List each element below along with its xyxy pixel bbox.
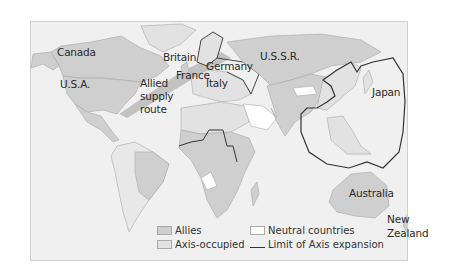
greenland-shape [141,24,196,52]
label-britain: Britain [163,52,196,63]
label-australia: Australia [349,188,394,199]
label-new-zealand-1: New [387,214,409,225]
brazil-shape [135,152,169,200]
africa-shape [179,130,255,218]
allies-swatch [157,226,172,235]
label-france: France [176,70,210,81]
label-ussr: U.S.S.R. [260,51,300,62]
label-usa: U.S.A. [60,79,90,90]
legend-limit-label: Limit of Axis expansion [268,239,384,250]
legend-axis-occupied: Axis-occupied [157,239,245,250]
label-japan: Japan [372,87,400,98]
southeast-asia-shape [327,116,371,154]
madagascar-shape [251,182,259,206]
label-new-zealand-2: Zealand [387,228,428,239]
label-allied-route-2: supply [140,91,173,102]
limit-line-swatch [250,247,265,248]
label-allied-route-1: Allied [140,78,168,89]
neutral-swatch [250,226,265,235]
north-africa-shape [181,102,249,134]
legend-allies-label: Allies [175,225,202,236]
label-canada: Canada [57,47,96,58]
label-germany: Germany [206,61,253,72]
middle-east-neutral-shape [243,104,277,130]
legend-axis-occupied-label: Axis-occupied [175,239,245,250]
legend-limit: Limit of Axis expansion [250,239,384,250]
label-allied-route-3: route [140,104,167,115]
axis-occupied-swatch [157,240,172,249]
label-italy: Italy [206,78,228,89]
legend-neutral-label: Neutral countries [268,225,355,236]
legend-neutral: Neutral countries [250,225,355,236]
legend-allies: Allies [157,225,202,236]
mongolia-neutral-shape [293,86,317,96]
